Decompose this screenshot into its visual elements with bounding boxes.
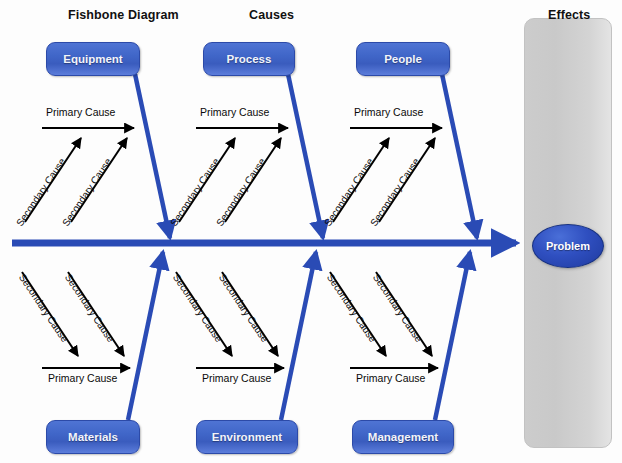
branch-rib-management [435,252,470,420]
category-box-process[interactable]: Process [203,42,295,76]
heading-fishbone-diagram: Fishbone Diagram [68,8,179,22]
category-label-materials: Materials [68,431,118,443]
category-label-equipment: Equipment [63,53,122,65]
fishbone-diagram-canvas: Fishbone Diagram Causes Effects Equipmen… [0,0,622,463]
primary-cause-label-environment: Primary Cause [202,372,271,384]
branch-rib-materials [128,252,163,420]
problem-node[interactable]: Problem [532,224,604,268]
primary-cause-label-materials: Primary Cause [48,372,117,384]
category-box-people[interactable]: People [356,42,450,76]
heading-causes: Causes [249,8,294,22]
heading-effects: Effects [548,8,590,22]
category-label-environment: Environment [212,431,282,443]
category-box-materials[interactable]: Materials [46,420,140,454]
primary-cause-label-equipment: Primary Cause [46,106,115,118]
branch-rib-environment [281,252,316,420]
primary-cause-label-people: Primary Cause [354,106,423,118]
branch-rib-process [288,74,323,238]
category-label-people: People [384,53,422,65]
primary-cause-label-management: Primary Cause [356,372,425,384]
category-box-management[interactable]: Management [352,420,454,454]
problem-label: Problem [546,240,590,252]
branch-rib-equipment [135,74,170,238]
primary-cause-label-process: Primary Cause [200,106,269,118]
category-label-process: Process [227,53,272,65]
category-box-environment[interactable]: Environment [196,420,298,454]
category-box-equipment[interactable]: Equipment [46,42,140,76]
category-label-management: Management [368,431,438,443]
branch-rib-people [442,74,477,238]
